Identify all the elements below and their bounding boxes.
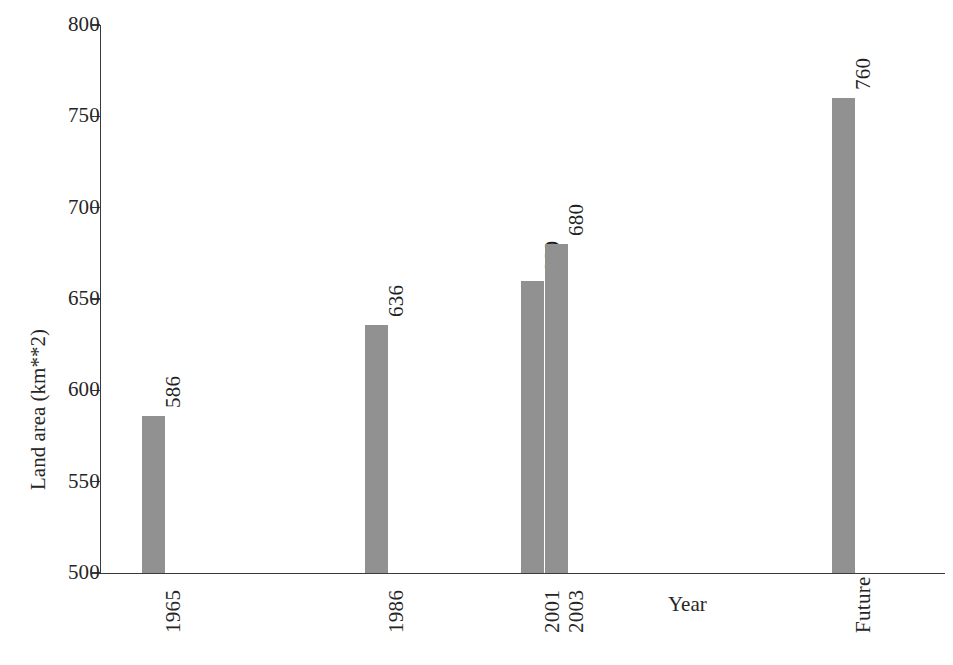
bar-value-label: 586 — [163, 376, 184, 408]
y-tick-label: 550 — [14, 471, 100, 492]
x-tick-label: 2003 — [566, 590, 587, 633]
bar — [832, 98, 855, 573]
bar — [142, 416, 165, 573]
y-tick-label: 800 — [14, 14, 100, 35]
bar-value-label: 636 — [386, 284, 407, 316]
bar-value-label: 680 — [566, 204, 587, 236]
y-tick-label: 700 — [14, 197, 100, 218]
y-tick-label: 600 — [14, 379, 100, 400]
x-axis-title: Year — [668, 592, 707, 616]
y-tick-label: 500 — [14, 562, 100, 583]
bar — [365, 325, 388, 573]
bar — [521, 281, 544, 573]
x-tick-label: 2001 — [542, 590, 563, 633]
x-tick-label: Future — [853, 576, 874, 633]
bar — [545, 244, 568, 573]
y-tick-label: 750 — [14, 105, 100, 126]
x-tick-label: 1965 — [163, 590, 184, 633]
x-tick-label: 1986 — [386, 590, 407, 633]
bar-value-label: 760 — [853, 58, 874, 90]
bar-chart: Land area (km**2) 500550600650700750800 … — [0, 0, 953, 665]
y-axis-title: Land area (km**2) — [24, 190, 52, 490]
y-tick-label: 650 — [14, 288, 100, 309]
y-axis-line — [100, 25, 101, 574]
